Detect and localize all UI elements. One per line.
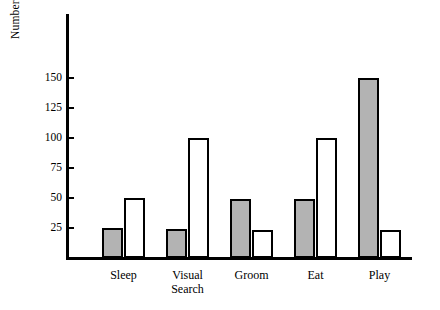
bar bbox=[102, 228, 123, 258]
bar bbox=[230, 199, 251, 258]
bar bbox=[380, 230, 401, 258]
y-axis-tick-label: 100 bbox=[28, 132, 62, 143]
y-axis-tick-label: 50 bbox=[28, 192, 62, 203]
y-axis-tick-label-wrap: 150 bbox=[18, 72, 62, 84]
bar bbox=[166, 229, 187, 258]
y-axis-tick-label-wrap: 25 bbox=[18, 222, 62, 234]
y-axis-title: Number of Observations bbox=[6, 0, 24, 70]
y-axis-tick-label: 75 bbox=[28, 162, 62, 173]
bar bbox=[316, 138, 337, 258]
bar bbox=[252, 230, 273, 258]
bar bbox=[188, 138, 209, 258]
y-axis-tick-label: 125 bbox=[28, 102, 62, 113]
bar bbox=[294, 199, 315, 258]
bar-chart: Number of Observations 255075100125150 S… bbox=[0, 0, 440, 310]
y-axis-tick-label-wrap: 50 bbox=[18, 192, 62, 204]
y-axis-tick-label: 25 bbox=[28, 222, 62, 233]
y-axis-tick-label-wrap: 75 bbox=[18, 162, 62, 174]
bar bbox=[358, 78, 379, 258]
y-axis-tick-label: 150 bbox=[28, 72, 62, 83]
x-axis-category-label: Play bbox=[335, 268, 425, 282]
plot-area bbox=[66, 14, 412, 258]
bar bbox=[124, 198, 145, 258]
y-axis-tick-label-wrap: 125 bbox=[18, 102, 62, 114]
y-axis-tick-label-wrap: 100 bbox=[18, 132, 62, 144]
